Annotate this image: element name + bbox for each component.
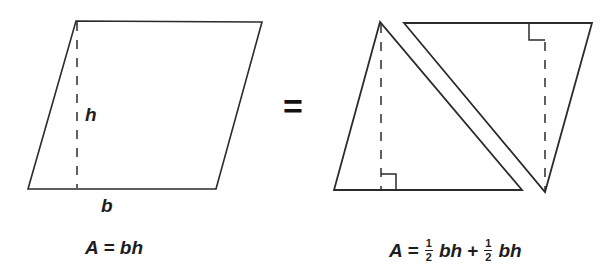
fraction-first-denominator: 2 [425,251,433,263]
left-formula-lhs: A [85,238,99,257]
equals-sign: = [283,89,303,123]
height-label-h: h [85,105,97,124]
right-formula-height-var-first: h [451,241,463,260]
right-formula-fraction-first: 1 2 [425,238,433,263]
parallelogram-outline [28,21,262,189]
right-formula-equals: = [408,241,419,260]
right-formula-base-var-second: b [498,241,510,260]
fraction-first-numerator: 1 [425,238,433,251]
right-formula-fraction-second: 1 2 [484,238,492,263]
right-formula-plus: + [467,241,478,260]
geometry-figures [0,0,615,276]
right-formula-base-var-first: b [439,241,451,260]
left-formula-equals: = [104,238,115,257]
fraction-second-numerator: 1 [484,238,492,251]
base-label-b: b [101,196,113,215]
left-formula-height-var: h [131,238,143,257]
right-formula-height-var-second: h [510,241,522,260]
parallelogram-group [28,21,262,189]
right-formula: A = 1 2 bh + 1 2 bh [389,238,522,263]
left-formula: A = bh [85,238,143,257]
right-formula-lhs: A [389,241,403,260]
left-formula-base-var: b [120,238,132,257]
diagram-canvas: h b = A = bh A = 1 2 bh + 1 2 bh [0,0,615,276]
fraction-second-denominator: 2 [484,251,492,263]
